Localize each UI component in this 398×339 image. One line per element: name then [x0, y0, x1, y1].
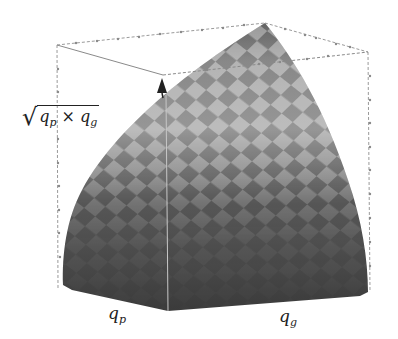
x-axis-label: qp [108, 303, 126, 326]
plot-canvas [0, 0, 398, 339]
y-axis-label: qg [279, 306, 297, 329]
radical-sign: √ [22, 103, 37, 131]
surface-plot: √qp×qg qp qg [0, 0, 398, 339]
z-axis-label: √qp×qg [22, 100, 99, 129]
surface [0, 0, 398, 339]
